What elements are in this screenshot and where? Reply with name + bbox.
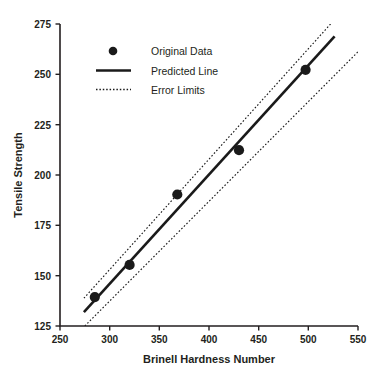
legend-marker-original-data-icon <box>109 47 118 56</box>
y-tick-label: 175 <box>34 220 51 231</box>
x-tick-label: 250 <box>52 334 69 345</box>
legend-label-error-limits: Error Limits <box>151 84 205 96</box>
y-tick-label: 225 <box>34 120 51 131</box>
data-point <box>234 145 244 155</box>
x-tick-label: 300 <box>101 334 118 345</box>
data-point <box>90 292 100 302</box>
y-tick-label: 125 <box>34 321 51 332</box>
x-tick-label: 350 <box>151 334 168 345</box>
x-tick-label: 450 <box>250 334 267 345</box>
x-tick-label: 500 <box>300 334 317 345</box>
data-point <box>301 65 311 75</box>
y-tick-label: 275 <box>34 19 51 30</box>
data-point <box>125 260 135 270</box>
legend-label-original-data: Original Data <box>151 45 212 57</box>
x-axis-title: Brinell Hardness Number <box>143 353 276 365</box>
data-point <box>172 189 182 199</box>
chart-figure: 275 250 225 200 175 150 125 250 300 350 … <box>0 0 384 379</box>
y-tick-label: 200 <box>34 170 51 181</box>
x-tick-label: 550 <box>350 334 367 345</box>
x-tick-label: 400 <box>201 334 218 345</box>
y-tick-label: 250 <box>34 69 51 80</box>
y-axis-title: Tensile Strength <box>12 132 24 218</box>
legend-label-predicted-line: Predicted Line <box>151 65 218 77</box>
y-tick-label: 150 <box>34 271 51 282</box>
